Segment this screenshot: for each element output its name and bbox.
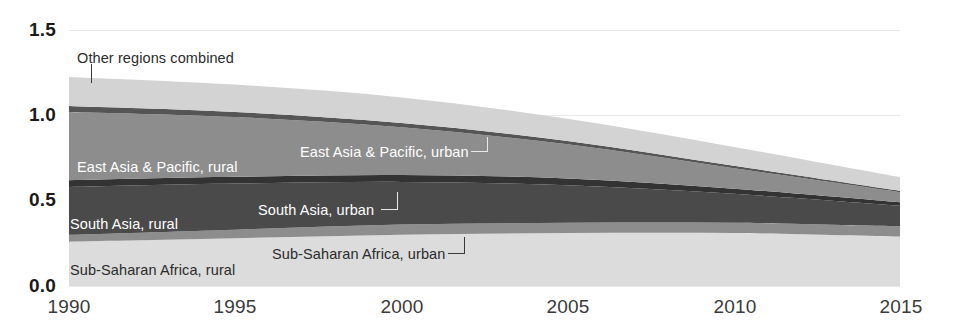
annotation-south-asia-rural: South Asia, rural [70, 216, 178, 232]
area-band-sub-saharan-africa-rural [69, 233, 900, 286]
y-tick-label-1.0: 1.0 [4, 104, 56, 126]
annotation-east-asia-pacific-rural: East Asia & Pacific, rural [77, 159, 238, 175]
annotation-east-asia-pacific-urban: East Asia & Pacific, urban [300, 144, 469, 160]
x-tick-label-1990: 1990 [24, 296, 114, 318]
leader-sub-saharan-africa-urban-h [448, 253, 465, 254]
annotation-other-regions-combined: Other regions combined [77, 50, 234, 66]
leader-east-asia-pacific-urban-v [487, 137, 488, 152]
leader-east-asia-pacific-urban-h [471, 151, 488, 152]
x-tick-label-2010: 2010 [690, 296, 780, 318]
stacked-area-chart: 1.5 1.0 0.5 0.0 1990 1995 2000 2005 2010… [0, 0, 977, 334]
y-tick-label-1.5: 1.5 [4, 19, 56, 41]
x-tick-label-1995: 1995 [190, 296, 280, 318]
annotation-sub-saharan-africa-rural: Sub-Saharan Africa, rural [70, 262, 235, 278]
leader-other-regions-combined [91, 64, 92, 83]
x-tick-label-2015: 2015 [856, 296, 946, 318]
x-tick-label-2000: 2000 [357, 296, 447, 318]
leader-sub-saharan-africa-urban-v [464, 237, 465, 254]
y-tick-label-0.0: 0.0 [4, 275, 56, 297]
area-series-svg [69, 30, 900, 286]
annotation-south-asia-urban: South Asia, urban [258, 202, 374, 218]
x-tick-label-2005: 2005 [523, 296, 613, 318]
plot-area [69, 30, 900, 286]
leader-south-asia-urban-h [381, 209, 398, 210]
annotation-sub-saharan-africa-urban: Sub-Saharan Africa, urban [272, 246, 445, 262]
gridline-0.0 [69, 286, 900, 287]
leader-south-asia-urban-v [397, 192, 398, 210]
y-tick-label-0.5: 0.5 [4, 189, 56, 211]
